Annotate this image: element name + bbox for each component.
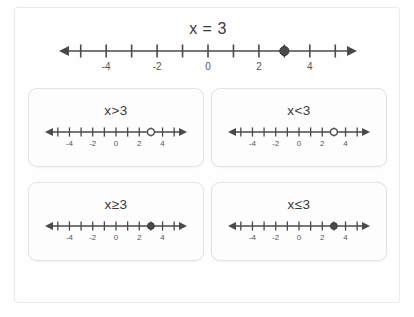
svg-text:4: 4 [343, 233, 348, 242]
svg-text:2: 2 [320, 139, 325, 148]
svg-text:0: 0 [114, 233, 119, 242]
number-line-svg-greater-than: -4-2024 [45, 123, 187, 151]
svg-text:-2: -2 [272, 233, 280, 242]
svg-text:-2: -2 [272, 139, 280, 148]
panel-greater-equal[interactable]: x≥3 -4-2024 [28, 182, 204, 261]
svg-text:4: 4 [160, 139, 165, 148]
svg-text:2: 2 [320, 233, 325, 242]
svg-text:2: 2 [137, 233, 142, 242]
panel-less-than[interactable]: x<3 -4-2024 [211, 88, 387, 167]
panel-label-greater-than: x>3 [29, 103, 203, 118]
main-number-line-block: x = 3 -4-2024 [15, 20, 401, 90]
figure-frame: x = 3 -4-2024 x>3 -4-2024 x<3 -4-2024 x≥… [14, 7, 400, 303]
svg-text:0: 0 [114, 139, 119, 148]
main-equation-label: x = 3 [15, 20, 401, 38]
main-number-line-svg: -4-2024 [58, 40, 358, 76]
inequality-panel-grid: x>3 -4-2024 x<3 -4-2024 x≥3 -4-2024 x≤3 … [28, 88, 388, 288]
svg-text:-4: -4 [66, 233, 74, 242]
panel-label-greater-equal: x≥3 [29, 197, 203, 212]
panel-less-equal[interactable]: x≤3 -4-2024 [211, 182, 387, 261]
number-line-less-equal: -4-2024 [228, 217, 370, 245]
svg-text:0: 0 [297, 233, 302, 242]
number-line-svg-less-than: -4-2024 [228, 123, 370, 151]
svg-text:-2: -2 [89, 139, 97, 148]
number-line-svg-greater-equal: -4-2024 [45, 217, 187, 245]
svg-text:-4: -4 [249, 139, 257, 148]
svg-text:0: 0 [297, 139, 302, 148]
svg-text:0: 0 [205, 61, 211, 72]
svg-text:4: 4 [160, 233, 165, 242]
svg-text:4: 4 [307, 61, 313, 72]
number-line-greater-than: -4-2024 [45, 123, 187, 151]
number-line-svg-less-equal: -4-2024 [228, 217, 370, 245]
panel-label-less-equal: x≤3 [212, 197, 386, 212]
svg-text:4: 4 [343, 139, 348, 148]
number-line-less-than: -4-2024 [228, 123, 370, 151]
svg-text:-4: -4 [66, 139, 74, 148]
panel-label-less-than: x<3 [212, 103, 386, 118]
svg-text:-4: -4 [102, 61, 111, 72]
svg-text:2: 2 [137, 139, 142, 148]
main-number-line: -4-2024 [58, 40, 358, 76]
number-line-greater-equal: -4-2024 [45, 217, 187, 245]
panel-greater-than[interactable]: x>3 -4-2024 [28, 88, 204, 167]
svg-text:-4: -4 [249, 233, 257, 242]
svg-text:-2: -2 [89, 233, 97, 242]
svg-text:-2: -2 [153, 61, 162, 72]
svg-text:2: 2 [256, 61, 262, 72]
